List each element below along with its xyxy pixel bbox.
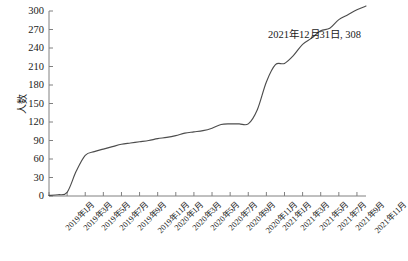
data-point-annotation: 2021年12月31日, 308 bbox=[268, 29, 361, 41]
